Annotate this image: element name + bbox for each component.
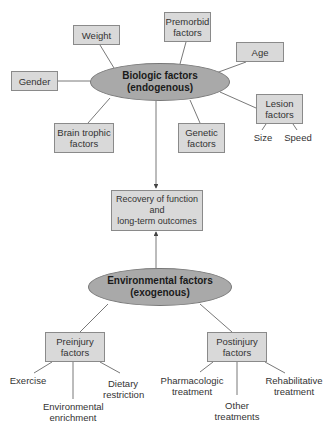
gender-box: Gender [11,71,58,91]
exercise-label: Exercise [8,375,48,386]
pharmacologic-treatment-label: Pharmacologic treatment [160,375,224,397]
age-box: Age [236,42,284,62]
lesion-size-label: Size [251,132,275,143]
genetic-factors-box: Genetic factors [178,123,225,153]
premorbid-factors-box: Premorbid factors [164,12,211,42]
dietary-restriction-label: Dietary restriction [103,378,143,400]
biologic-factors-node: Biologic factors (endogenous) [90,63,230,101]
other-treatments-label: Other treatments [212,400,262,422]
environmental-factors-node: Environmental factors (exogenous) [88,268,232,306]
lesion-speed-label: Speed [283,132,313,143]
rehabilitative-treatment-label: Rehabilitative treatment [263,375,325,397]
preinjury-factors-box: Preinjury factors [45,332,105,362]
recovery-outcomes-box: Recovery of function and long-term outco… [111,190,203,231]
lesion-factors-box: Lesion factors [256,94,303,124]
weight-box: Weight [73,25,120,45]
brain-trophic-factors-box: Brain trophic factors [54,123,114,153]
postinjury-factors-box: Postinjury factors [207,332,267,362]
environmental-enrichment-label: Environmental enrichment [43,401,103,423]
